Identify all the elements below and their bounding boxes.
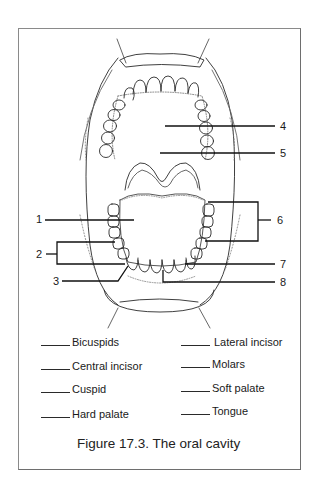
callout-4: 4 — [280, 121, 286, 132]
lower-lip — [104, 290, 214, 312]
left-cheek-outline — [86, 58, 118, 305]
upper-teeth — [100, 76, 215, 160]
answer-term: Molars — [212, 358, 245, 370]
lower-teeth — [108, 204, 214, 273]
answer-term: Soft palate — [212, 382, 265, 394]
answer-term: Central incisor — [72, 360, 142, 372]
answer-term: Hard palate — [72, 408, 129, 420]
answer-row-soft-palate: Soft palate — [181, 382, 265, 394]
tongue — [120, 194, 205, 266]
leader-lines — [45, 126, 275, 282]
answer-row-tongue: Tongue — [181, 405, 248, 417]
figure-caption: Figure 17.3. The oral cavity — [77, 436, 240, 452]
answer-row-lateral-incisor: Lateral incisor — [181, 336, 282, 348]
answer-blank[interactable] — [41, 392, 70, 393]
answer-row-central-incisor: Central incisor — [41, 360, 142, 372]
answer-term: Tongue — [212, 405, 248, 417]
answer-blank[interactable] — [181, 414, 210, 415]
callout-2: 2 — [36, 249, 42, 260]
callout-3: 3 — [53, 276, 59, 287]
answer-term: Cuspid — [72, 383, 106, 395]
callout-1: 1 — [36, 214, 42, 225]
callout-5: 5 — [280, 148, 286, 159]
answer-blank[interactable] — [41, 417, 70, 418]
answer-blank[interactable] — [41, 345, 70, 346]
answer-term: Bicuspids — [72, 336, 119, 348]
answer-row-cuspid: Cuspid — [41, 383, 106, 395]
answer-blank[interactable] — [41, 369, 70, 370]
answer-row-molars: Molars — [181, 358, 245, 370]
callout-8: 8 — [280, 277, 286, 288]
right-cheek-outline — [200, 58, 235, 305]
callout-7: 7 — [280, 259, 286, 270]
answer-row-bicuspids: Bicuspids — [41, 336, 119, 348]
answer-row-hard-palate: Hard palate — [41, 408, 129, 420]
answer-blank[interactable] — [181, 391, 210, 392]
upper-lip — [120, 54, 204, 67]
answer-blank[interactable] — [181, 345, 210, 346]
answer-blank[interactable] — [181, 367, 210, 368]
oral-cavity-illustration — [0, 0, 317, 497]
answer-term: Lateral incisor — [214, 336, 282, 348]
callout-6: 6 — [277, 215, 283, 226]
